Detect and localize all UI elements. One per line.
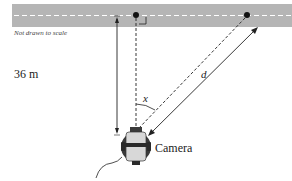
geometry-diagram — [0, 0, 292, 181]
angle-arc — [136, 104, 155, 110]
camera-icon — [96, 127, 151, 178]
hypotenuse-label: d — [201, 68, 207, 80]
hypotenuse-arrow — [148, 27, 258, 136]
not-to-scale-note: Not drawn to scale — [14, 29, 67, 37]
camera-label: Camera — [155, 141, 192, 156]
car-point-far — [244, 12, 250, 18]
distance-arrow — [114, 16, 120, 135]
angle-label: x — [143, 92, 148, 104]
road — [12, 4, 292, 27]
car-point-near — [133, 12, 139, 18]
distance-label: 36 m — [14, 67, 38, 82]
sight-dashed-line — [139, 18, 245, 128]
